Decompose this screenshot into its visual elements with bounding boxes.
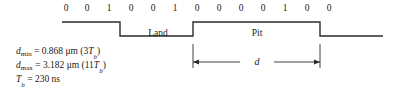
equation-subscript: max: [21, 64, 33, 72]
equation-subscript: b: [21, 81, 25, 89]
dimension-arrowhead-left-icon: [193, 60, 199, 65]
equation-subscript: min: [21, 50, 32, 58]
equation-tail-subscript: b: [99, 67, 103, 75]
dimension-arrowhead-right-icon: [314, 60, 320, 65]
dimension-label: d: [240, 56, 274, 68]
equation-tail-text: ): [103, 60, 106, 70]
equation-tail-variable: T: [88, 46, 93, 56]
equation-line: dmin = 0.868 μm (3Tb): [16, 44, 106, 58]
equation-value: = 0.868 μm (3: [32, 46, 89, 56]
equation-value: = 3.182 μm (11: [33, 60, 94, 70]
equation-tail-text: ): [97, 46, 100, 56]
equation-tail-subscript: b: [94, 53, 98, 61]
equation-line: Tb = 230 ns: [16, 72, 106, 86]
land-region-label: Land: [122, 27, 194, 39]
equation-value: = 230 ns: [25, 74, 60, 84]
equation-line: dmax = 3.182 μm (11Tb): [16, 58, 106, 72]
pit-region-label: Pit: [194, 27, 320, 39]
waveform-figure: 0010010000100 Land Pit d dmin = 0.868 μm…: [0, 0, 398, 98]
equations-block: dmin = 0.868 μm (3Tb)dmax = 3.182 μm (11…: [16, 44, 106, 86]
